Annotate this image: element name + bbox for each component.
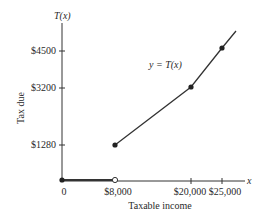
- x-axis-title: Taxable income: [128, 200, 192, 211]
- segment-rising: [115, 31, 236, 145]
- tax-function-chart: T(x) x $4500 $3200 $1280 0 $8,000 $20,00…: [0, 0, 264, 223]
- point-origin-closed: [59, 177, 64, 182]
- x-tick-label-25000: $25,000: [209, 186, 242, 197]
- point-8000-open: [112, 177, 117, 182]
- point-20000: [188, 84, 193, 89]
- y-tick-label-3200: $3200: [31, 82, 56, 93]
- point-25000: [219, 45, 224, 50]
- curve-label: y = T(x): [148, 59, 183, 71]
- y-tick-label-1280: $1280: [31, 139, 56, 150]
- x-tick-label-8000: $8,000: [104, 186, 132, 197]
- y-axis-symbol: T(x): [54, 10, 71, 22]
- point-8000-closed: [112, 142, 117, 147]
- y-axis-title: Tax due: [15, 92, 26, 124]
- x-axis-symbol: x: [246, 175, 252, 186]
- x-tick-label-0: 0: [62, 186, 67, 197]
- x-tick-label-20000: $20,000: [174, 186, 207, 197]
- y-tick-label-4500: $4500: [31, 45, 56, 56]
